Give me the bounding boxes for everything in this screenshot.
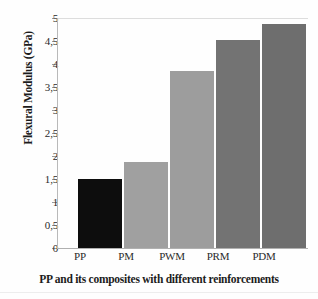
y-tick-label-3: 1,5 — [12, 174, 58, 185]
plot-area — [58, 18, 308, 248]
y-tick-label-7: 3,5 — [12, 82, 58, 93]
bar-rect-pm — [124, 162, 168, 248]
bar-rect-pwm — [170, 71, 214, 248]
y-tick-label-6: 3 — [12, 105, 58, 116]
y-tick-label-2: 1 — [12, 197, 58, 208]
y-tick-label-8: 4 — [12, 59, 58, 70]
top-gridline — [58, 18, 308, 19]
bar-rect-pdm — [262, 24, 306, 248]
y-tick-label-10: 5 — [12, 13, 58, 24]
bar-rect-pp — [78, 179, 122, 248]
x-axis-title: PP and its composites with different rei… — [0, 273, 318, 285]
y-tick-label-1: 0,5 — [12, 220, 58, 231]
x-tick-label-pdm: PDM — [234, 250, 294, 262]
x-axis-line — [58, 248, 308, 249]
bar-rect-prm — [216, 40, 260, 248]
y-tick-label-9: 4,5 — [12, 36, 58, 47]
y-tick-label-4: 2 — [12, 151, 58, 162]
y-tick-label-5: 2,5 — [12, 128, 58, 139]
chart-figure: Flexural Modulus (GPa) 0 0,5 1 1,5 2 2,5… — [0, 0, 318, 299]
